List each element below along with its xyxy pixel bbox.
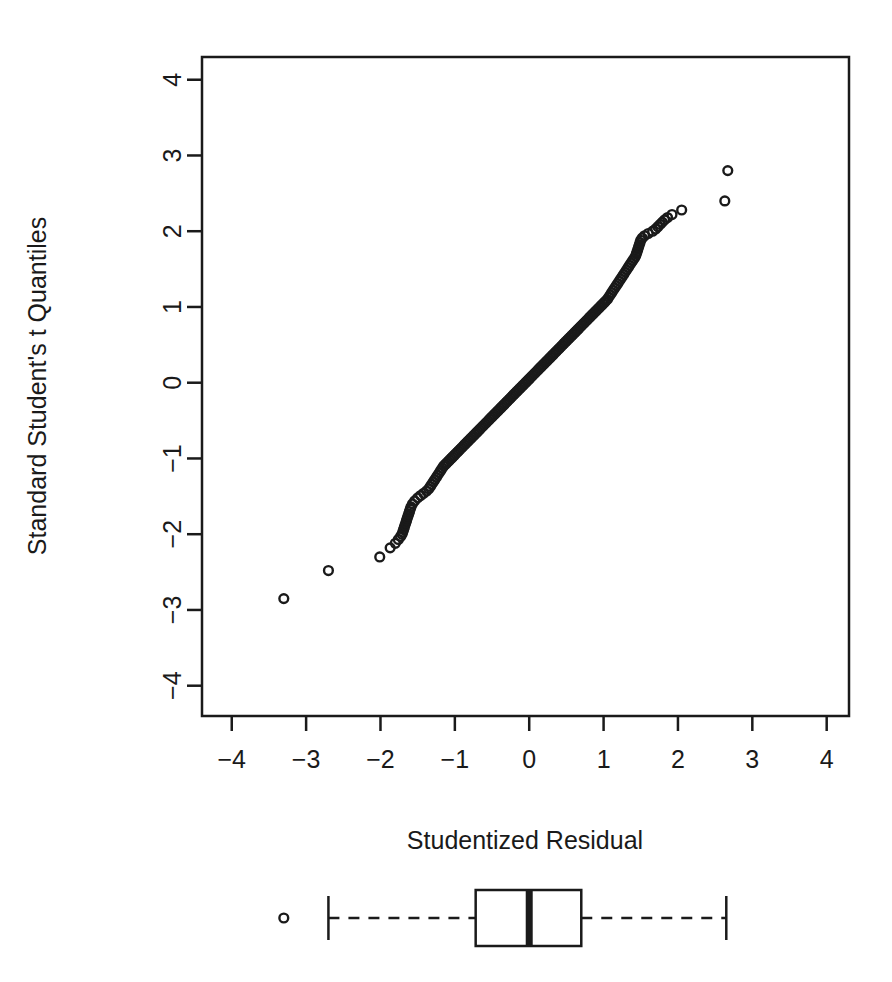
x-tick-label: 2 <box>671 745 685 773</box>
y-axis-ticks: −4−3−2−101234 <box>158 73 202 700</box>
y-tick-label: 1 <box>158 300 186 314</box>
scatter-points <box>279 166 732 603</box>
x-tick-label: 4 <box>820 745 834 773</box>
x-tick-label: −4 <box>217 745 246 773</box>
x-tick-label: 3 <box>745 745 759 773</box>
x-tick-label: −1 <box>441 745 470 773</box>
y-tick-label: −3 <box>158 596 186 625</box>
figure-canvas: −4−3−2−101234 −4−3−2−101234 Studentized … <box>0 0 892 982</box>
x-tick-label: −2 <box>366 745 395 773</box>
y-tick-label: −4 <box>158 671 186 700</box>
data-point <box>723 166 732 175</box>
data-point <box>324 566 333 575</box>
data-point <box>375 553 384 562</box>
data-point <box>279 594 288 603</box>
y-tick-label: 4 <box>158 73 186 87</box>
y-tick-label: 2 <box>158 224 186 238</box>
x-tick-label: 0 <box>522 745 536 773</box>
x-tick-label: 1 <box>597 745 611 773</box>
y-tick-label: −2 <box>158 520 186 549</box>
y-tick-label: −1 <box>158 444 186 473</box>
y-tick-label: 3 <box>158 149 186 163</box>
data-point <box>677 206 686 215</box>
boxplot-outlier <box>279 914 288 923</box>
marginal-boxplot <box>279 890 726 946</box>
x-tick-label: −3 <box>292 745 321 773</box>
y-axis-label: Standard Student's t Quantiles <box>23 217 51 555</box>
x-axis-label: Studentized Residual <box>407 826 643 854</box>
x-axis-ticks: −4−3−2−101234 <box>217 716 833 773</box>
y-tick-label: 0 <box>158 376 186 390</box>
qq-plot-figure: −4−3−2−101234 −4−3−2−101234 Studentized … <box>0 0 892 982</box>
data-point <box>720 197 729 206</box>
